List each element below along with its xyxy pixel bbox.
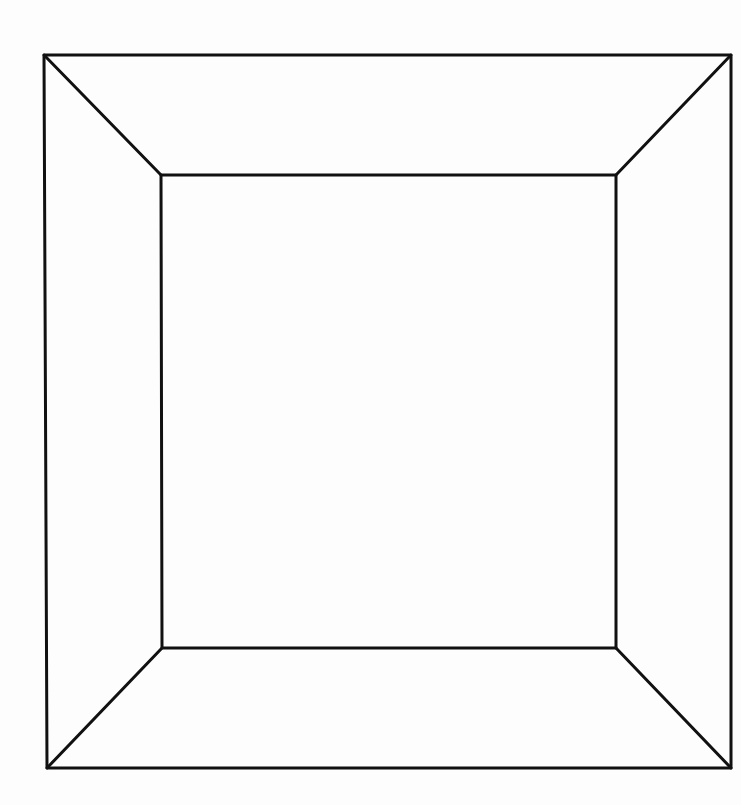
diagram-canvas [0,0,741,805]
inner-rectangle [161,175,616,648]
bottom-right-diagonal-line [616,648,731,768]
frustum-drawing [0,0,741,805]
top-right-diagonal-line [616,55,731,175]
top-left-diagonal-line [44,55,161,175]
corner-connectors [44,55,731,768]
bottom-left-diagonal-line [47,648,162,768]
